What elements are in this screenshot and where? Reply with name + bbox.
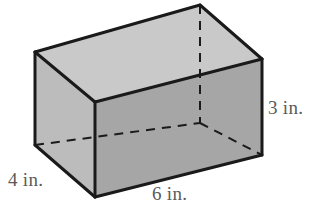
dimension-label-width: 6 in. <box>152 184 187 203</box>
dimension-label-depth: 4 in. <box>8 170 43 189</box>
figure-canvas: 3 in. 4 in. 6 in. <box>0 0 327 207</box>
dimension-label-height: 3 in. <box>268 98 303 117</box>
